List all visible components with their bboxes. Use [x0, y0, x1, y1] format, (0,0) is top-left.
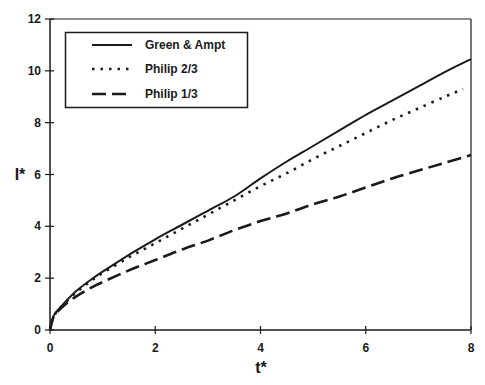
- series-philip-2-3: [50, 89, 463, 330]
- series-philip-1-3: [50, 155, 471, 330]
- y-tick-label: 12: [28, 12, 42, 26]
- legend-label-philip-1-3: Philip 1/3: [145, 87, 198, 101]
- legend-label-philip-2-3: Philip 2/3: [145, 62, 198, 76]
- legend-label-green-ampt: Green & Ampt: [145, 38, 225, 52]
- y-tick-label: 6: [34, 168, 41, 182]
- y-tick-label: 0: [34, 323, 41, 337]
- x-tick-label: 0: [47, 341, 54, 355]
- x-tick-label: 4: [257, 341, 264, 355]
- x-tick-label: 6: [362, 341, 369, 355]
- y-axis-title: I*: [15, 166, 26, 183]
- y-tick-label: 10: [28, 64, 42, 78]
- x-tick-label: 2: [152, 341, 159, 355]
- y-tick-label: 4: [34, 219, 41, 233]
- x-tick-label: 8: [468, 341, 475, 355]
- y-tick-label: 2: [34, 271, 41, 285]
- infiltration-chart: 02468 024681012 t* I* Green & Ampt Phili…: [0, 0, 485, 385]
- legend: Green & Ampt Philip 2/3 Philip 1/3: [66, 33, 248, 108]
- x-axis-title: t*: [255, 359, 267, 376]
- y-tick-label: 8: [34, 116, 41, 130]
